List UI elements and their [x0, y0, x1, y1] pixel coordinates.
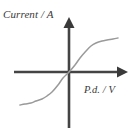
x-axis-label: P.d. / V [84, 84, 115, 95]
y-axis-arrowhead [64, 17, 75, 28]
iv-characteristic-figure: Current / A P.d. / V [0, 0, 140, 132]
y-axis-label: Current / A [3, 8, 54, 20]
x-axis-arrowhead [117, 67, 128, 78]
